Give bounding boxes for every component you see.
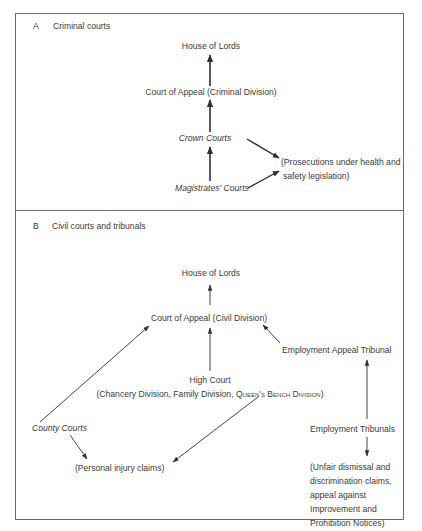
node-b-county-courts: County Courts	[32, 423, 87, 434]
arrow-b-highcourt-to-personal	[173, 397, 258, 462]
node-a-crown-courts: Crown Courts	[179, 133, 232, 144]
section-b-letter: B	[33, 221, 39, 232]
node-b-personal-injury: (Personal injury claims)	[75, 463, 164, 474]
node-b-unfair-line5: Prohibition Notices)	[310, 518, 385, 529]
node-a-house-of-lords: House of Lords	[182, 41, 240, 52]
node-a-magistrates-courts: Magistrates' Courts	[175, 183, 249, 194]
node-b-court-of-appeal: Court of Appeal (Civil Division)	[151, 313, 267, 324]
section-a-title: Criminal courts	[53, 21, 110, 32]
divisions-text: (Chancery Division, Family Division,	[96, 389, 235, 399]
node-b-employment-tribunals: Employment Tribunals	[310, 424, 395, 435]
arrow-b-eat-to-coa	[263, 325, 280, 343]
node-b-high-court-divisions: (Chancery Division, Family Division, Que…	[96, 389, 323, 400]
node-a-prosecutions-line1: (Prosecutions under health and	[281, 157, 400, 168]
node-a-court-of-appeal: Court of Appeal (Criminal Division)	[145, 87, 276, 98]
arrows-layer	[0, 0, 422, 531]
arrow-b-county-to-personal	[70, 435, 87, 459]
queens-bench-division: Queen's Bench Division	[236, 389, 321, 399]
arrow-b-county-to-coa	[40, 326, 149, 422]
section-b-title: Civil courts and tribunals	[52, 221, 146, 232]
node-b-unfair-line2: discrimination claims,	[310, 476, 392, 487]
node-a-prosecutions-line2: safety legislation)	[283, 171, 349, 182]
node-b-employment-appeal-tribunal: Employment Appeal Tribunal	[282, 345, 391, 356]
node-b-unfair-line4: Improvement and	[310, 504, 377, 515]
section-a-letter: A	[33, 21, 39, 32]
node-b-high-court: High Court	[189, 375, 230, 386]
node-b-house-of-lords: House of Lords	[182, 268, 240, 279]
node-b-unfair-line3: appeal against	[310, 490, 366, 501]
divisions-close: )	[321, 389, 324, 399]
arrow-a-crown-to-prosecutions	[247, 139, 279, 158]
node-b-unfair-line1: (Unfair dismissal and	[310, 462, 390, 473]
arrow-a-magistrates-to-prosecutions	[248, 171, 279, 188]
